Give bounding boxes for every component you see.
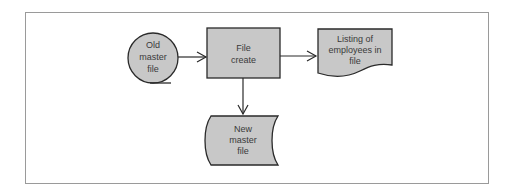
node-label-line: file xyxy=(237,146,249,156)
node-label-line: Listing of xyxy=(337,34,374,44)
node-label-line: employees in xyxy=(328,45,381,55)
node-label-line: Old xyxy=(146,40,160,50)
edge-file-create-to-listing xyxy=(280,51,316,61)
node-label-line: File xyxy=(236,43,251,53)
node-label-line: master xyxy=(139,52,167,62)
edge-file-create-to-new-master xyxy=(238,78,248,114)
flowchart: Old master file File create Listing of e… xyxy=(0,0,513,192)
node-new-master-file: New master file xyxy=(205,116,278,165)
node-label-line: file xyxy=(349,56,361,66)
node-label-line: create xyxy=(231,55,256,65)
process-shape xyxy=(207,28,280,78)
node-old-master-file: Old master file xyxy=(128,33,178,83)
node-label-line: file xyxy=(147,64,159,74)
node-listing-of-employees: Listing of employees in file xyxy=(318,29,392,76)
node-label-line: New xyxy=(234,124,253,134)
node-label-line: master xyxy=(229,135,257,145)
edge-old-master-to-file-create xyxy=(178,52,206,62)
node-file-create: File create xyxy=(207,28,280,78)
